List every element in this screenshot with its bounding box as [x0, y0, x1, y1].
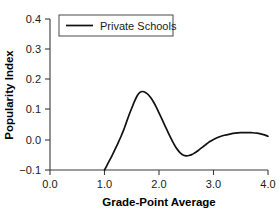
plot-area: 0.4 0.3 0.2 0.1 0.0 −0.1 0.0 1.0 2.0 3.0…: [0, 0, 279, 213]
y-tick-label: 0.1: [26, 103, 41, 115]
y-tick-label: −0.1: [19, 164, 41, 176]
legend-label-private-schools: Private Schools: [100, 20, 177, 32]
y-tick-label: 0.4: [26, 13, 41, 25]
y-tick-label: 0.2: [26, 73, 41, 85]
chart-figure: 0.4 0.3 0.2 0.1 0.0 −0.1 0.0 1.0 2.0 3.0…: [0, 0, 279, 213]
x-tick-label: 0.0: [42, 178, 57, 190]
x-tick-label: 2.0: [151, 178, 166, 190]
y-tick-label: 0.0: [26, 134, 41, 146]
y-axis-title: Popularity Index: [3, 50, 15, 140]
x-axis-tick-labels: 0.0 1.0 2.0 3.0 4.0: [42, 178, 275, 190]
x-tick-label: 3.0: [206, 178, 221, 190]
x-tick-label: 4.0: [260, 178, 275, 190]
data-series-private-schools: [105, 91, 269, 170]
x-axis-title: Grade-Point Average: [102, 196, 216, 208]
y-tick-label: 0.3: [26, 43, 41, 55]
y-axis-tick-labels: 0.4 0.3 0.2 0.1 0.0 −0.1: [19, 13, 41, 176]
y-axis-ticks: [45, 19, 50, 170]
x-tick-label: 1.0: [97, 178, 112, 190]
legend: Private Schools: [59, 15, 177, 36]
x-axis-ticks: [50, 170, 268, 175]
